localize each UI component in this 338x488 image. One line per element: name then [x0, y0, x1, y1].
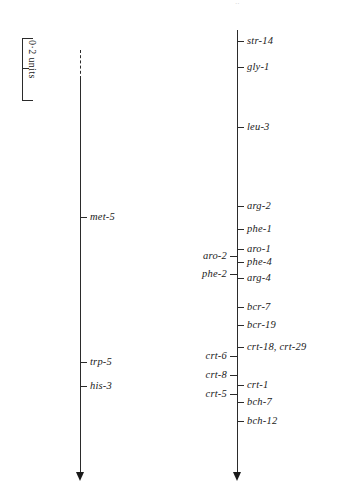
locus-label: crt-18, crt-29	[247, 341, 306, 352]
locus-tick	[230, 394, 237, 395]
locus-label: crt-8	[206, 369, 227, 380]
locus-tick	[230, 375, 237, 376]
locus-label: bch-12	[247, 415, 277, 426]
chromosome-axis-arrowhead	[233, 472, 241, 481]
locus-tick	[237, 229, 244, 230]
locus-label: arg-4	[247, 272, 271, 283]
locus-label: arg-2	[247, 200, 271, 211]
chromosome-axis-line	[237, 30, 238, 472]
locus-label: crt-6	[206, 350, 227, 361]
locus-tick	[237, 41, 244, 42]
locus-label: gly-1	[247, 61, 270, 72]
locus-tick	[237, 67, 244, 68]
locus-label: crt-1	[247, 379, 268, 390]
locus-tick	[237, 206, 244, 207]
locus-tick	[230, 256, 237, 257]
locus-label: aro-2	[203, 250, 227, 261]
locus-tick	[237, 385, 244, 386]
locus-tick	[237, 127, 244, 128]
locus-tick	[237, 307, 244, 308]
locus-tick	[237, 347, 244, 348]
locus-tick	[237, 402, 244, 403]
locus-label: leu-3	[247, 121, 270, 132]
linkage-map-figure: ·· 0·2 units met-5trp-5his-3str-14gly-1l…	[0, 0, 338, 488]
locus-tick	[237, 278, 244, 279]
locus-label: crt-5	[206, 388, 227, 399]
locus-label: bcr-19	[247, 319, 276, 330]
locus-label: phe-2	[202, 268, 227, 279]
locus-label: phe-1	[247, 223, 272, 234]
locus-label: bch-7	[247, 396, 272, 407]
locus-tick	[237, 262, 244, 263]
locus-tick	[230, 356, 237, 357]
locus-tick	[237, 325, 244, 326]
locus-tick	[237, 249, 244, 250]
locus-tick	[230, 274, 237, 275]
chromosome-right-linkage-group: str-14gly-1leu-3arg-2phe-1aro-1aro-2phe-…	[0, 0, 338, 488]
locus-tick	[237, 421, 244, 422]
locus-label: aro-1	[247, 243, 271, 254]
locus-label: bcr-7	[247, 301, 271, 312]
locus-label: phe-4	[247, 256, 272, 267]
locus-label: str-14	[247, 35, 273, 46]
